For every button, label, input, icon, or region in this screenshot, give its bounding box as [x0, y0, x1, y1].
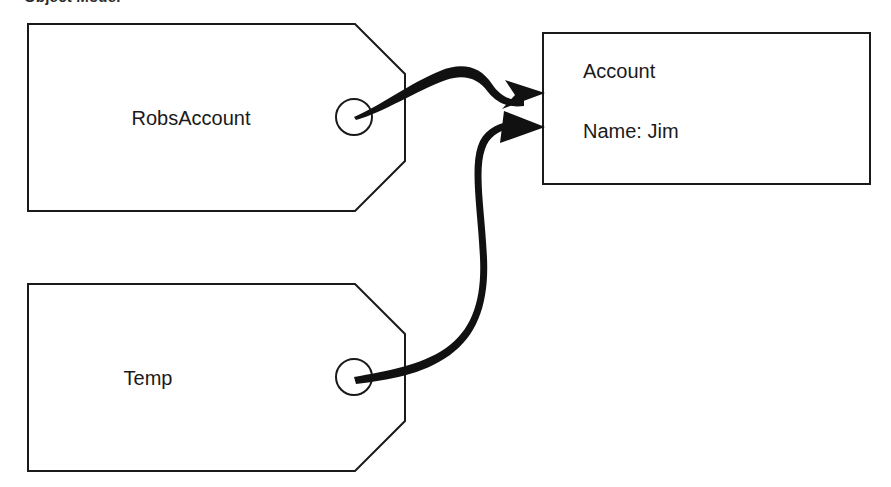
object-label-temp: Temp — [124, 367, 173, 389]
object-robsaccount[interactable]: RobsAccount — [28, 24, 405, 211]
object-account-box[interactable]: Account Name: Jim — [543, 33, 870, 184]
object-label-robsaccount: RobsAccount — [132, 107, 251, 129]
box-outline-account[interactable] — [543, 33, 870, 184]
box-attribute-name: Name: Jim — [583, 120, 679, 142]
object-diagram: RobsAccount Temp Account Name: Jim — [0, 0, 891, 487]
box-title-account: Account — [583, 60, 656, 82]
arrowhead-temp — [500, 111, 545, 143]
object-temp[interactable]: Temp — [28, 284, 405, 471]
diagram-canvas: Object Model RobsAccount Temp Account Na… — [0, 0, 891, 487]
